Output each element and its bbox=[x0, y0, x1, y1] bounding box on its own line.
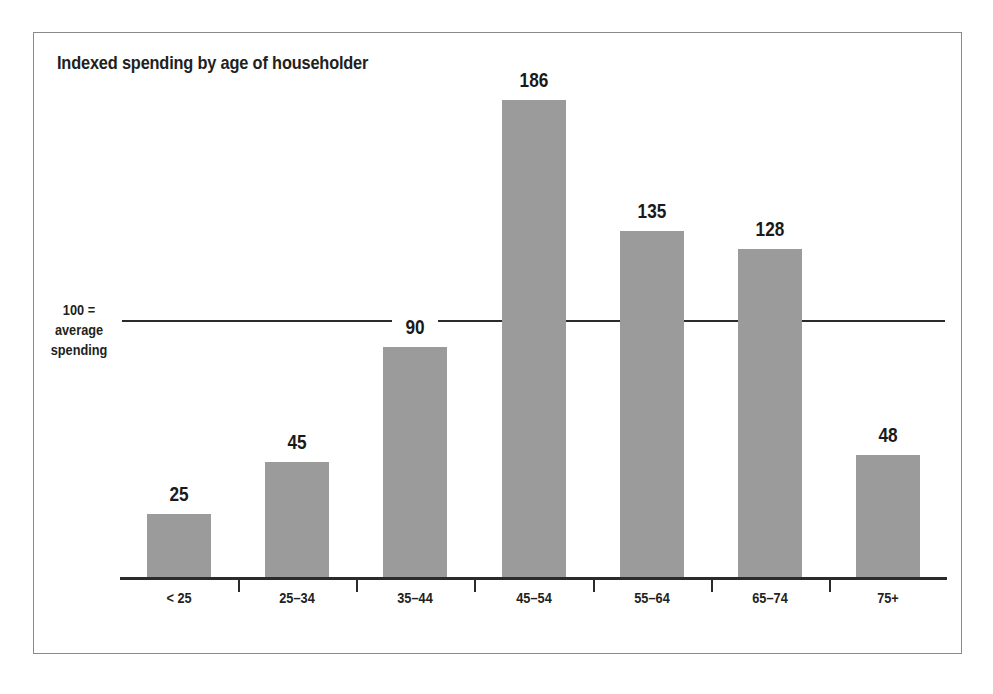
bar-value-label: 25 bbox=[146, 482, 212, 506]
x-axis-tick bbox=[238, 580, 240, 592]
reference-line-label: 100 = average spending bbox=[46, 300, 112, 360]
bar bbox=[147, 514, 211, 578]
x-axis-tick bbox=[829, 580, 831, 592]
x-axis-label: 75+ bbox=[845, 589, 930, 606]
bar bbox=[856, 455, 920, 578]
reference-label-line-1: 100 = bbox=[46, 300, 112, 320]
x-axis-label: 45–54 bbox=[491, 589, 576, 606]
bar bbox=[502, 100, 566, 578]
bar bbox=[265, 462, 329, 578]
x-axis-tick bbox=[711, 580, 713, 592]
reference-label-line-3: spending bbox=[46, 340, 112, 360]
x-axis-label: < 25 bbox=[137, 589, 222, 606]
bar bbox=[383, 347, 447, 578]
x-axis-label: 25–34 bbox=[255, 589, 340, 606]
bar-value-label: 128 bbox=[737, 217, 803, 241]
x-axis-tick bbox=[593, 580, 595, 592]
x-axis-line bbox=[120, 577, 947, 580]
bar-value-label: 48 bbox=[855, 423, 921, 447]
bar-value-label: 45 bbox=[264, 430, 330, 454]
x-axis-label: 35–44 bbox=[373, 589, 458, 606]
x-axis-tick bbox=[356, 580, 358, 592]
bar-value-label: 90 bbox=[383, 315, 449, 339]
reference-label-line-2: average bbox=[46, 320, 112, 340]
chart-title: Indexed spending by age of householder bbox=[57, 52, 368, 74]
x-axis-label: 65–74 bbox=[727, 589, 812, 606]
bar bbox=[738, 249, 802, 578]
bar-value-label: 135 bbox=[619, 199, 685, 223]
bar bbox=[620, 231, 684, 578]
x-axis-label: 55–64 bbox=[609, 589, 694, 606]
bar-value-label: 186 bbox=[501, 68, 567, 92]
chart-figure: Indexed spending by age of householder 1… bbox=[0, 0, 993, 694]
x-axis-tick bbox=[474, 580, 476, 592]
plot-area: Indexed spending by age of householder 1… bbox=[0, 0, 993, 694]
